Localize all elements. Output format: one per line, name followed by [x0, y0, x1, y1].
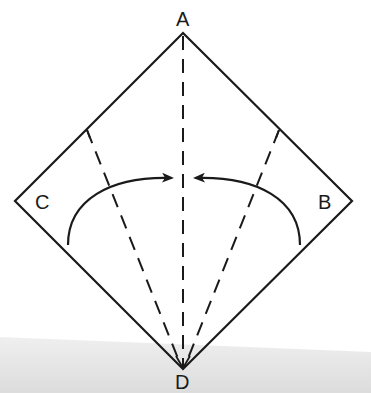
- right-fold-arrow: [195, 178, 300, 245]
- right-fold-tick: [276, 130, 279, 138]
- vertex-label-left: C: [35, 192, 49, 212]
- vertex-label-right: B: [318, 192, 331, 212]
- vertex-label-bottom: D: [175, 372, 189, 392]
- right-fold-line: [185, 130, 279, 366]
- left-fold-arrow: [68, 178, 172, 245]
- left-fold-tick: [87, 130, 90, 138]
- fold-diagram: [0, 0, 371, 393]
- vertex-label-top: A: [176, 9, 189, 29]
- left-fold-line: [87, 130, 181, 366]
